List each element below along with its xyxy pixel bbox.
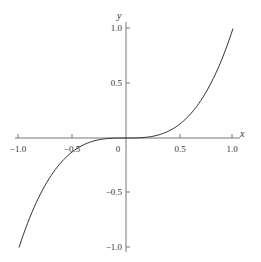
y-tick-label: −1.0 [106,242,123,252]
x-tick-label: 1.0 [226,144,238,154]
y-tick-label: −0.5 [106,187,123,197]
x-ticks [18,134,232,138]
y-tick-label: 0.5 [111,78,123,88]
x-tick-label: 0 [116,144,121,154]
cubic-function-chart: −1.0 −0.5 0 0.5 1.0 1.0 0.5 −0.5 −1.0 x … [0,0,261,262]
y-axis-label: y [116,10,122,21]
y-tick-label: 1.0 [111,23,123,33]
x-axis-label: x [239,128,245,139]
x-tick-label: 0.5 [174,144,186,154]
x-tick-label: −1.0 [10,144,27,154]
